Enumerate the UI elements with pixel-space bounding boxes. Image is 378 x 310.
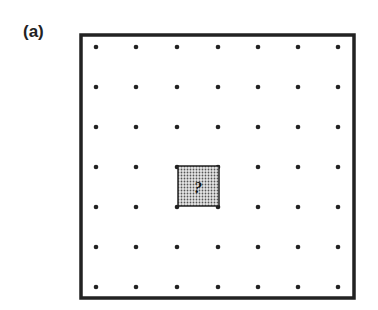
lattice-dot xyxy=(216,125,221,130)
lattice-dot xyxy=(216,45,221,50)
lattice-dot xyxy=(336,285,341,290)
lattice-dot xyxy=(94,245,99,250)
lattice-dot xyxy=(134,45,139,50)
question-mark: ? xyxy=(194,179,202,196)
lattice-dot xyxy=(134,165,139,170)
lattice-dot xyxy=(296,165,301,170)
lattice-dot xyxy=(216,85,221,90)
dot-lattice-diagram: ? xyxy=(0,0,378,310)
lattice-dot xyxy=(94,165,99,170)
lattice-dot xyxy=(296,205,301,210)
lattice-dot xyxy=(336,85,341,90)
lattice-dot xyxy=(175,285,180,290)
lattice-dot xyxy=(256,125,261,130)
lattice-dot xyxy=(94,205,99,210)
lattice-dot xyxy=(336,125,341,130)
lattice-dot xyxy=(256,205,261,210)
lattice-dot xyxy=(296,285,301,290)
lattice-dot xyxy=(336,245,341,250)
lattice-dot xyxy=(336,45,341,50)
lattice-dot xyxy=(134,205,139,210)
lattice-dot xyxy=(175,85,180,90)
lattice-dot xyxy=(175,45,180,50)
lattice-dot xyxy=(216,285,221,290)
lattice-dot xyxy=(134,125,139,130)
lattice-dot xyxy=(296,45,301,50)
lattice-dot xyxy=(256,285,261,290)
missing-cell: ? xyxy=(178,166,219,206)
lattice-dot xyxy=(175,125,180,130)
lattice-dot xyxy=(256,45,261,50)
lattice-dot xyxy=(94,45,99,50)
lattice-dot xyxy=(336,165,341,170)
lattice-dot xyxy=(94,125,99,130)
lattice-dot xyxy=(94,285,99,290)
lattice-dot xyxy=(175,245,180,250)
lattice-dot xyxy=(296,85,301,90)
lattice-dot xyxy=(256,85,261,90)
lattice-dot xyxy=(256,245,261,250)
lattice-dot xyxy=(134,285,139,290)
lattice-dot xyxy=(134,245,139,250)
lattice-dot xyxy=(336,205,341,210)
lattice-dot xyxy=(296,125,301,130)
lattice-dot xyxy=(256,165,261,170)
lattice-dot xyxy=(134,85,139,90)
lattice-dot xyxy=(296,245,301,250)
lattice-dot xyxy=(94,85,99,90)
lattice-dot xyxy=(216,245,221,250)
